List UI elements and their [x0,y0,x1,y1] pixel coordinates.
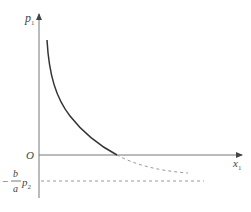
y-axis-label: p1 [24,11,35,27]
svg-text:a: a [13,183,18,194]
solid-curve [47,40,117,155]
svg-text:b: b [13,168,18,179]
asymptote-label: − b a p2 [2,168,32,194]
dashed-curve-extension [117,155,188,173]
svg-text:p2: p2 [21,176,32,191]
origin-label: O [26,149,34,161]
svg-text:−: − [2,175,8,187]
diagram: p1 x1 O − b a p2 [0,0,251,212]
x-axis-label: x1 [232,157,242,172]
